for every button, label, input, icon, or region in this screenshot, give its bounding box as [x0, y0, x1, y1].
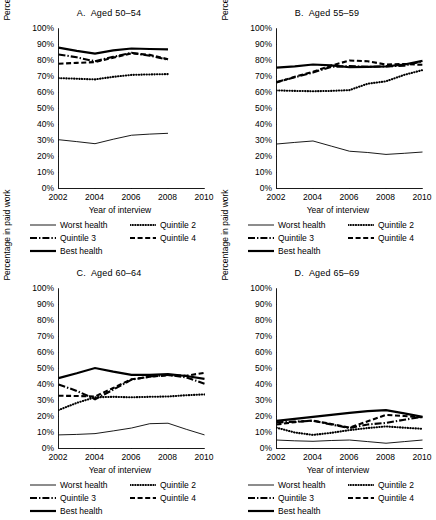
legend-item-quintile-3: Quintile 3 — [248, 233, 348, 243]
x-tick-label: 2010 — [195, 452, 214, 462]
y-tick-label: 100% — [250, 283, 272, 293]
y-axis-label-a: Percentage in paid work — [1, 0, 13, 50]
y-tick-label: 60% — [37, 87, 54, 97]
y-tick-label: 60% — [255, 347, 272, 357]
y-tick-label: 90% — [37, 39, 54, 49]
x-tick-label: 2006 — [340, 192, 359, 202]
legend-row: Best health — [248, 244, 436, 257]
chart-panel-d: D.Aged 65–69 Percentage in paid work 0%1… — [218, 260, 436, 520]
x-tick-label: 2010 — [413, 452, 432, 462]
legend-item-label: Best health — [60, 506, 103, 516]
legend-item-label: Quintile 4 — [160, 233, 196, 243]
y-tick-label: 70% — [37, 71, 54, 81]
legend-line-swatch-icon — [248, 506, 274, 516]
plot-area-b: 0%10%20%30%40%50%60%70%80%90%100%2002200… — [276, 28, 422, 188]
y-tick-label: 30% — [37, 135, 54, 145]
legend-line-swatch-icon — [348, 233, 374, 243]
series-line — [59, 133, 169, 143]
y-tick-label: 80% — [255, 55, 272, 65]
x-tick-label: 2004 — [85, 452, 104, 462]
legend-row: Worst healthQuintile 2 — [248, 478, 436, 491]
legend-item-label: Quintile 2 — [378, 220, 414, 230]
legend-item-label: Quintile 3 — [60, 233, 96, 243]
x-tick-label: 2006 — [122, 452, 141, 462]
panel-title-text-a: Aged 50–54 — [91, 8, 142, 18]
panel-title-c: C.Aged 60–64 — [0, 268, 218, 278]
legend-line-swatch-icon — [248, 246, 274, 256]
y-tick-label: 60% — [37, 347, 54, 357]
panel-title-a: A.Aged 50–54 — [0, 8, 218, 18]
panel-letter-b: B. — [295, 8, 304, 18]
y-tick-label: 60% — [255, 87, 272, 97]
legend-item-label: Quintile 3 — [60, 493, 96, 503]
series-line — [277, 440, 423, 443]
legend-a: Worst healthQuintile 2Quintile 3Quintile… — [30, 218, 218, 257]
legend-line-swatch-icon — [248, 480, 274, 490]
y-tick-label: 70% — [255, 331, 272, 341]
legend-line-swatch-icon — [248, 220, 274, 230]
y-tick-label: 10% — [37, 167, 54, 177]
legend-item-label: Quintile 2 — [160, 480, 196, 490]
legend-row: Worst healthQuintile 2 — [248, 218, 436, 231]
legend-line-swatch-icon — [348, 480, 374, 490]
plot-canvas-b: 0%10%20%30%40%50%60%70%80%90%100%2002200… — [276, 28, 422, 188]
panel-letter-d: D. — [295, 268, 304, 278]
legend-line-swatch-icon — [348, 220, 374, 230]
y-axis-label-b: Percentage in paid work — [219, 0, 231, 50]
y-tick-label: 30% — [255, 395, 272, 405]
legend-item-best-health: Best health — [30, 246, 130, 256]
chart-panel-c: C.Aged 60–64 Percentage in paid work 0%1… — [0, 260, 218, 520]
x-tick-label: 2002 — [49, 452, 68, 462]
legend-item-label: Quintile 4 — [378, 493, 414, 503]
legend-d: Worst healthQuintile 2Quintile 3Quintile… — [248, 478, 436, 517]
legend-line-swatch-icon — [130, 480, 156, 490]
x-tick-label: 2004 — [85, 192, 104, 202]
y-tick-label: 100% — [250, 23, 272, 33]
legend-item-quintile-2: Quintile 2 — [130, 220, 218, 230]
y-axis-label-c: Percentage in paid work — [1, 160, 13, 310]
legend-row: Best health — [248, 504, 436, 517]
legend-item-label: Worst health — [60, 220, 108, 230]
legend-line-swatch-icon — [30, 506, 56, 516]
legend-line-swatch-icon — [130, 493, 156, 503]
y-tick-label: 90% — [255, 39, 272, 49]
y-tick-label: 100% — [32, 23, 54, 33]
x-axis-label-b: Year of interview — [258, 205, 418, 215]
legend-row: Worst healthQuintile 2 — [30, 478, 218, 491]
legend-item-worst-health: Worst health — [30, 220, 130, 230]
legend-b: Worst healthQuintile 2Quintile 3Quintile… — [248, 218, 436, 257]
series-line — [277, 141, 423, 154]
series-line — [59, 48, 169, 54]
x-tick-label: 2008 — [376, 192, 395, 202]
legend-item-label: Quintile 4 — [160, 493, 196, 503]
panel-title-text-b: Aged 55–59 — [309, 8, 360, 18]
figure-panel-grid: A.Aged 50–54 Percentage in paid work 0%1… — [0, 0, 436, 520]
legend-line-swatch-icon — [30, 493, 56, 503]
legend-line-swatch-icon — [30, 246, 56, 256]
plot-area-c: 0%10%20%30%40%50%60%70%80%90%100%2002200… — [58, 288, 204, 448]
x-tick-label: 2010 — [413, 192, 432, 202]
x-axis-label-c: Year of interview — [40, 465, 200, 475]
y-tick-label: 20% — [255, 411, 272, 421]
legend-item-label: Worst health — [278, 480, 326, 490]
plot-canvas-a: 0%10%20%30%40%50%60%70%80%90%100%2002200… — [58, 28, 204, 188]
legend-row: Best health — [30, 244, 218, 257]
legend-item-label: Quintile 4 — [378, 233, 414, 243]
series-line — [277, 70, 423, 91]
legend-item-worst-health: Worst health — [30, 480, 130, 490]
legend-item-quintile-2: Quintile 2 — [348, 220, 436, 230]
legend-row: Quintile 3Quintile 4 — [248, 231, 436, 244]
x-tick-label: 2004 — [303, 452, 322, 462]
series-line — [277, 410, 423, 421]
legend-item-quintile-2: Quintile 2 — [348, 480, 436, 490]
legend-item-quintile-4: Quintile 4 — [130, 233, 218, 243]
legend-item-quintile-4: Quintile 4 — [348, 233, 436, 243]
legend-line-swatch-icon — [30, 233, 56, 243]
y-tick-label: 30% — [255, 135, 272, 145]
legend-row: Quintile 3Quintile 4 — [30, 231, 218, 244]
y-tick-label: 80% — [255, 315, 272, 325]
legend-row: Quintile 3Quintile 4 — [30, 491, 218, 504]
y-tick-label: 20% — [255, 151, 272, 161]
y-tick-label: 10% — [255, 167, 272, 177]
y-tick-label: 50% — [255, 103, 272, 113]
